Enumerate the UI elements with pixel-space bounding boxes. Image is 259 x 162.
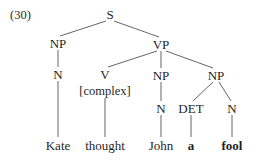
tree-leaf-a: a: [188, 139, 195, 152]
tree-edge: [108, 51, 157, 67]
tree-leaf-thought: thought: [85, 139, 125, 152]
tree-node-n3: N: [227, 102, 236, 115]
tree-edge: [193, 82, 213, 101]
tree-node-np1: NP: [50, 37, 67, 50]
tree-edge: [60, 21, 106, 36]
example-number-label: (30): [10, 9, 31, 22]
tree-edge: [219, 82, 231, 101]
tree-node-np2: NP: [153, 69, 170, 82]
tree-node-n2: N: [156, 102, 165, 115]
tree-node-s: S: [106, 8, 113, 21]
tree-edge: [166, 51, 213, 68]
syntax-tree-figure: (30) SNPVPNVNPNP[complex]NDETN Katethoug…: [0, 0, 259, 162]
tree-node-n1: N: [53, 68, 62, 81]
tree-edge: [114, 21, 159, 37]
tree-node-v: V: [100, 68, 109, 81]
tree-leaf-kate: Kate: [46, 139, 71, 152]
tree-leaf-john: John: [149, 139, 174, 152]
tree-node-det: DET: [178, 102, 203, 115]
tree-node-np3: NP: [208, 69, 225, 82]
tree-node-complex: [complex]: [79, 85, 130, 98]
tree-leaf-fool: fool: [222, 139, 243, 152]
tree-node-vp: VP: [153, 38, 170, 51]
